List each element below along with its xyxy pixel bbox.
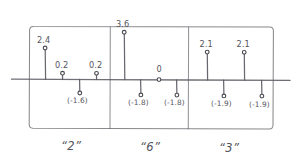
marker-p2-v2 xyxy=(139,93,143,97)
marker-p1-v2 xyxy=(61,71,65,75)
marker-p2-v4 xyxy=(175,93,179,97)
panel-6-stems xyxy=(122,30,178,97)
value-label-p1-v3: (-1.6) xyxy=(67,96,88,105)
marker-p3-v4 xyxy=(260,94,264,98)
value-label-p2-v4: (-1.8) xyxy=(164,98,185,107)
panel-3-stems xyxy=(205,50,263,98)
value-label-p3-v3: 2.1 xyxy=(237,39,250,49)
value-label-p1-v1: 2.4 xyxy=(37,35,50,45)
marker-p1-v3 xyxy=(78,91,82,95)
hand-drawn-stem-plot-figure: 2.4 0.2 (-1.6) 0.2 3.6 (-1.8) 0 (-1.8) xyxy=(0,0,295,160)
panel-caption-3: “3” xyxy=(219,141,240,155)
value-label-p2-v2: (-1.8) xyxy=(128,98,149,107)
marker-p1-v1 xyxy=(43,46,47,50)
value-label-p3-v4: (-1.9) xyxy=(249,100,270,109)
panel-caption-2: “2” xyxy=(61,139,82,153)
stem-p2-v1 xyxy=(124,34,125,80)
value-label-p1-v4: 0.2 xyxy=(89,60,102,70)
panel-2-stems xyxy=(43,46,98,95)
value-label-p3-v2: (-1.9) xyxy=(211,99,232,108)
marker-p3-v1 xyxy=(205,50,209,54)
marker-p2-v1 xyxy=(122,30,126,34)
figure-canvas: 2.4 0.2 (-1.6) 0.2 3.6 (-1.8) 0 (-1.8) xyxy=(0,0,295,160)
marker-p3-v2 xyxy=(222,94,226,98)
value-label-p2-v1: 3.6 xyxy=(116,19,129,29)
marker-p3-v3 xyxy=(242,50,246,54)
value-label-p2-v3: 0 xyxy=(157,64,162,74)
value-label-p3-v1: 2.1 xyxy=(200,39,213,49)
zero-baseline-axis xyxy=(12,79,291,80)
value-label-p1-v2: 0.2 xyxy=(55,60,68,70)
marker-p2-v3 xyxy=(157,78,161,82)
marker-p1-v4 xyxy=(95,71,99,75)
panel-caption-6: “6” xyxy=(140,140,161,154)
